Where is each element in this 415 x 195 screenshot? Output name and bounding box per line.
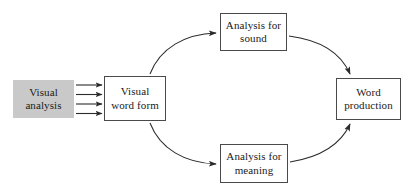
node-analysis-for-sound: Analysis for sound [220,13,287,51]
arrow-analysis-meaning-to-word-production [290,124,350,162]
arrow-visual-word-form-to-analysis-sound [150,33,216,74]
arrow-analysis-sound-to-word-production [289,36,350,74]
node-visual-analysis: Visual analysis [13,80,74,118]
diagram-canvas: Visual analysis Visual word form Analysi… [0,0,415,195]
node-word-production: Word production [336,78,401,120]
node-word-production-label: Word production [342,86,395,113]
node-analysis-for-meaning-label: Analysis for meaning [224,150,283,177]
node-analysis-for-meaning: Analysis for meaning [220,144,288,183]
node-visual-word-form: Visual word form [104,76,166,121]
node-visual-word-form-label: Visual word form [109,85,161,112]
node-visual-analysis-label: Visual analysis [23,86,63,113]
arrow-visual-word-form-to-analysis-meaning [150,123,216,164]
node-analysis-for-sound-label: Analysis for sound [224,19,283,46]
